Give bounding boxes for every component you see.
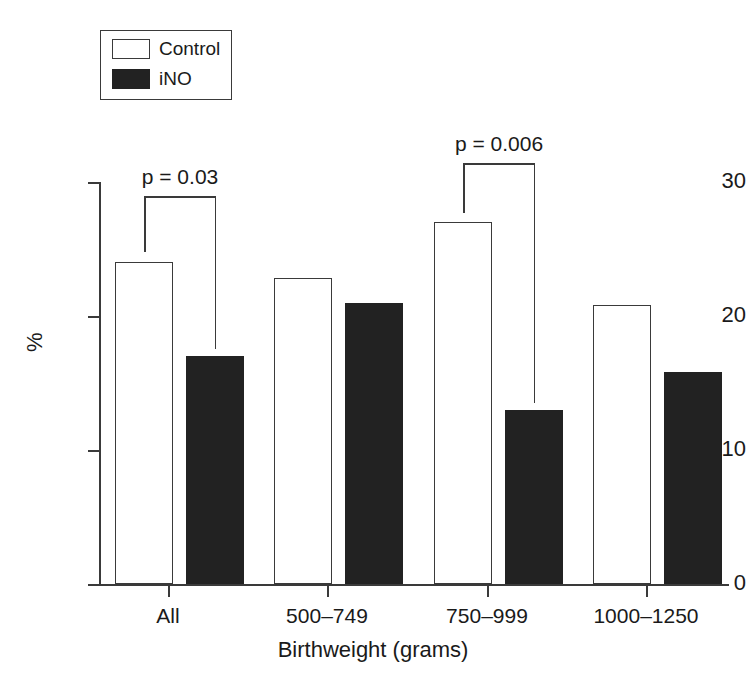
x-axis-title: Birthweight (grams) xyxy=(0,638,746,662)
sig-bracket-1-top xyxy=(144,196,216,198)
y-axis-title: % xyxy=(24,332,46,352)
x-tick-750-999 xyxy=(487,585,489,597)
bar-ino-all xyxy=(186,356,244,584)
bar-control-1000-1250 xyxy=(593,305,651,584)
y-axis-line xyxy=(99,182,101,585)
bar-ino-1000-1250 xyxy=(664,372,722,584)
x-tick-1000-1250 xyxy=(646,585,648,597)
sig-bracket-1-right-stem xyxy=(215,196,217,349)
y-tick-10 xyxy=(88,450,100,452)
x-axis-line xyxy=(99,584,729,586)
bar-control-750-999 xyxy=(434,222,492,584)
bar-control-500-749 xyxy=(274,278,332,584)
y-tick-label-30: 30 xyxy=(688,170,746,192)
y-tick-30 xyxy=(88,182,100,184)
sig-bracket-1-left-stem xyxy=(144,196,146,252)
bar-control-all xyxy=(115,262,173,584)
sig-bracket-2-top xyxy=(463,163,535,165)
x-tick-label-all: All xyxy=(156,604,179,628)
x-tick-label-500-749: 500–749 xyxy=(286,604,368,628)
bar-chart-figure: Control iNO 30 20 10 0 % All 500–749 750… xyxy=(0,0,746,693)
x-tick-500-749 xyxy=(327,585,329,597)
sig-label-1: p = 0.03 xyxy=(142,166,218,188)
x-tick-label-750-999: 750–999 xyxy=(446,604,528,628)
bar-ino-500-749 xyxy=(345,303,403,584)
y-tick-label-20: 20 xyxy=(688,304,746,326)
sig-label-2: p = 0.006 xyxy=(455,133,543,155)
sig-bracket-2-right-stem xyxy=(534,163,536,403)
plot-area: 30 20 10 0 % All 500–749 750–999 1000–12… xyxy=(0,0,746,693)
x-tick-all xyxy=(168,585,170,597)
y-tick-20 xyxy=(88,316,100,318)
bar-ino-750-999 xyxy=(505,410,563,584)
x-tick-label-1000-1250: 1000–1250 xyxy=(593,604,698,628)
sig-bracket-2-left-stem xyxy=(463,163,465,213)
y-tick-0 xyxy=(88,584,100,586)
